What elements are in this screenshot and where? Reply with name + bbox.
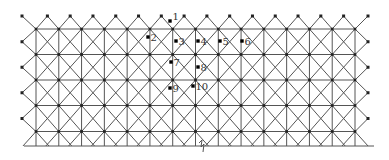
grid-member [160, 132, 173, 147]
grid-member [218, 16, 229, 29]
grid-node [149, 104, 152, 107]
grid-node [354, 130, 357, 133]
grid-node [240, 53, 243, 56]
grid-node [103, 53, 106, 56]
grid-member [355, 42, 368, 55]
point-label: 1 [173, 11, 179, 22]
grid-member [70, 16, 81, 29]
corner-support-node [367, 15, 370, 18]
point-label: 9 [173, 83, 179, 94]
grid-member [355, 93, 368, 106]
labeled-point-3: 3 [174, 36, 185, 47]
grid-member [114, 132, 127, 147]
top-support-node [251, 15, 254, 18]
grid-member [355, 16, 368, 29]
top-support-node [228, 15, 231, 18]
point-label: 2 [151, 32, 157, 43]
grid-member [355, 119, 368, 132]
grid-node [217, 79, 220, 82]
grid-member [22, 80, 36, 93]
point-marker [196, 65, 199, 68]
grid-node [80, 104, 83, 107]
point-label: 10 [196, 81, 209, 92]
grid-member [196, 132, 209, 147]
grid-member [22, 16, 36, 29]
left-support-node [21, 66, 24, 69]
grid-node [217, 130, 220, 133]
grid-member [22, 55, 36, 68]
grid-member [309, 132, 322, 147]
grid-member [22, 67, 36, 80]
grid-node [331, 104, 334, 107]
grid-node [103, 28, 106, 31]
grid-node [149, 130, 152, 133]
grid-node [354, 28, 357, 31]
grid-node [149, 79, 152, 82]
top-support-node [183, 15, 186, 18]
grid-node [354, 53, 357, 56]
grid-member [207, 16, 218, 29]
grid-node [240, 79, 243, 82]
grid-member [82, 132, 95, 147]
grid-node [263, 130, 266, 133]
left-support-node [21, 117, 24, 120]
point-marker [174, 39, 177, 42]
grid-member [22, 119, 36, 132]
grid-node [285, 104, 288, 107]
grid-member [332, 16, 343, 29]
top-support-node [114, 15, 117, 18]
grid-node [35, 104, 38, 107]
grid-node [263, 79, 266, 82]
grid-member [173, 132, 186, 147]
grid-node [80, 79, 83, 82]
grid-node [217, 28, 220, 31]
grid-node [171, 53, 174, 56]
grid-node [35, 79, 38, 82]
grid-member [69, 132, 82, 147]
point-label: 7 [174, 57, 180, 68]
point-marker [218, 39, 221, 42]
point-label: 4 [201, 36, 207, 47]
grid-node [240, 130, 243, 133]
grid-node [331, 130, 334, 133]
grid-node [285, 53, 288, 56]
grid-member [342, 132, 355, 147]
grid-member [22, 42, 36, 55]
grid-member [344, 16, 355, 29]
grid-member [274, 132, 287, 147]
grid-node [240, 28, 243, 31]
grid-node [126, 130, 129, 133]
grid-member [355, 67, 368, 80]
grid-node [80, 28, 83, 31]
labeled-point-6: 6 [240, 36, 251, 47]
grid-member [218, 132, 231, 147]
grid-member [22, 29, 36, 42]
grid-member [116, 16, 127, 29]
grid-member [150, 132, 163, 147]
grid-member [59, 16, 70, 29]
grid-member [137, 132, 150, 147]
point-label: 6 [245, 36, 251, 47]
grid-member [127, 132, 140, 147]
grid-node [308, 79, 311, 82]
grid-member [355, 132, 368, 147]
grid-node [57, 104, 60, 107]
grid-node [171, 104, 174, 107]
top-support-node [274, 15, 277, 18]
grid-node [217, 104, 220, 107]
grid-node [126, 28, 129, 31]
grid-member [104, 16, 115, 29]
grid-member [252, 16, 263, 29]
point-marker [146, 35, 149, 38]
labeled-point-4: 4 [196, 36, 207, 47]
left-support-node [21, 40, 24, 43]
right-support-node [367, 91, 370, 94]
grid-member [332, 132, 345, 147]
grid-node [194, 53, 197, 56]
grid-member [298, 16, 309, 29]
grid-member [127, 16, 138, 29]
left-support-node [21, 91, 24, 94]
grid-node [171, 28, 174, 31]
grid-member [93, 16, 104, 29]
grid-node [80, 130, 83, 133]
